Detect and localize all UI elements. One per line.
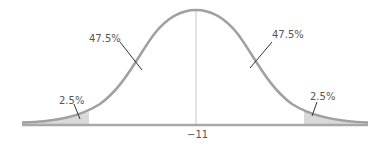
bell-curve-graphic (0, 0, 383, 146)
right-center-percent-label: 47.5% (272, 30, 304, 40)
normal-curve-diagram: 47.5% 47.5% 2.5% 2.5% −11 (0, 0, 383, 146)
left-tail-percent-label: 2.5% (59, 96, 84, 106)
right-tail-percent-label: 2.5% (310, 92, 335, 102)
mean-value-label: −11 (187, 130, 208, 140)
left-center-percent-label: 47.5% (89, 34, 121, 44)
